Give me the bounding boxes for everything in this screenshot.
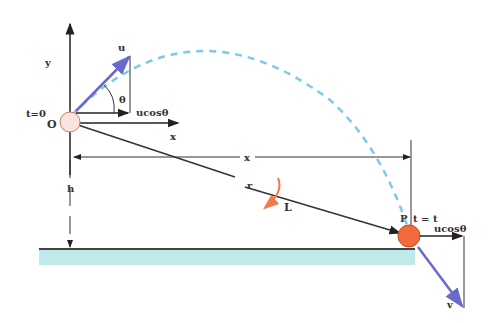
label-origin: O: [47, 118, 57, 131]
label-y: y: [44, 57, 52, 68]
label-t0: t=0: [26, 108, 46, 119]
label-ucos-end: ucosθ: [434, 223, 467, 234]
label-range: x: [244, 152, 251, 163]
ground: [39, 249, 415, 265]
label-L: L: [284, 201, 292, 214]
angular-momentum-arrow: [266, 178, 280, 207]
projectile-diagram: y x O t=0 u θ ucosθ x h r L P t = t ucos…: [0, 0, 493, 323]
label-h: h: [67, 183, 75, 194]
label-r: r: [247, 180, 253, 191]
label-ucos-start: ucosθ: [136, 107, 169, 118]
position-vector: [72, 123, 235, 177]
label-P: P: [400, 213, 408, 224]
label-x-axis: x: [170, 131, 177, 142]
start-ball: [60, 112, 80, 132]
label-v: v: [446, 299, 454, 310]
angle-arc: [104, 85, 114, 113]
final-velocity-vector: [418, 247, 462, 306]
position-vector-2: [245, 187, 400, 233]
label-theta: θ: [119, 94, 126, 105]
end-ball: [398, 225, 420, 247]
label-u: u: [118, 42, 125, 53]
